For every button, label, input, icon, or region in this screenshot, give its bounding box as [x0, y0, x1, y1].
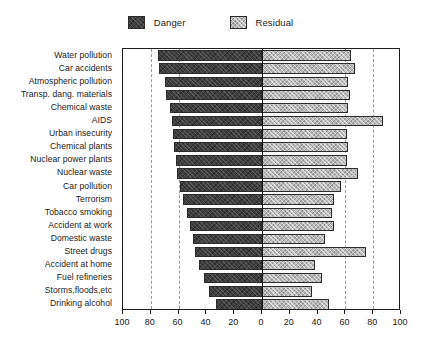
bar-residual	[262, 168, 358, 178]
bar-residual	[262, 103, 348, 113]
x-tick-label: 60	[339, 317, 349, 327]
bar-residual	[262, 194, 334, 204]
x-tick-label: 80	[145, 317, 155, 327]
bar-danger	[165, 77, 262, 87]
category-label: Chemical plants	[50, 141, 112, 151]
x-tick-label: 40	[200, 317, 210, 327]
bar-row	[123, 247, 399, 257]
bar-residual	[262, 273, 322, 283]
x-tick-label: 80	[367, 317, 377, 327]
bar-row	[123, 273, 399, 283]
bar-residual	[262, 63, 355, 73]
bar-row	[123, 260, 399, 270]
x-tick	[372, 310, 373, 314]
bar-residual	[262, 299, 329, 309]
bar-row	[123, 168, 399, 178]
bar-residual	[262, 221, 334, 231]
bar-row	[123, 286, 399, 296]
bar-danger	[193, 234, 263, 244]
bar-danger	[216, 299, 262, 309]
bar-row	[123, 194, 399, 204]
residual-swatch-icon	[230, 16, 247, 29]
bar-danger	[187, 208, 262, 218]
bar-danger	[170, 103, 262, 113]
category-label: Water pollution	[54, 50, 112, 60]
bar-danger	[204, 273, 262, 283]
bar-residual	[262, 286, 312, 296]
bar-row	[123, 299, 399, 309]
category-label: Nuclear power plants	[30, 154, 112, 164]
x-tick	[317, 310, 318, 314]
category-label: Drinking alcohol	[50, 298, 112, 308]
bar-residual	[262, 208, 332, 218]
bar-row	[123, 63, 399, 73]
bar-residual	[262, 129, 347, 139]
bar-danger	[173, 129, 262, 139]
bar-row	[123, 221, 399, 231]
bar-danger	[176, 155, 262, 165]
category-label: Chemical waste	[51, 102, 112, 112]
category-label: Tobacco smoking	[45, 207, 112, 217]
category-label: Transp. dang. materials	[21, 89, 112, 99]
category-label: Car pollution	[63, 181, 112, 191]
legend-entry-danger[interactable]: Danger	[128, 16, 186, 29]
bar-danger	[180, 181, 262, 191]
diverging-bar-chart: DangerResidual Water pollutionCar accide…	[0, 0, 421, 343]
x-tick	[261, 310, 262, 314]
bar-residual	[262, 77, 348, 87]
x-tick	[233, 310, 234, 314]
x-tick	[122, 310, 123, 314]
category-label: Atmospheric pollution	[29, 76, 112, 86]
x-tick-label: 20	[284, 317, 294, 327]
bar-danger	[174, 142, 262, 152]
category-axis-labels: Water pollutionCar accidentsAtmospheric …	[0, 48, 118, 310]
bar-residual	[262, 155, 347, 165]
category-label: Terrorism	[76, 194, 112, 204]
category-label: Accident at home	[45, 259, 112, 269]
category-label: Urban insecurity	[49, 128, 112, 138]
bar-danger	[158, 50, 262, 60]
bar-row	[123, 77, 399, 87]
bar-danger	[195, 247, 262, 257]
bar-row	[123, 116, 399, 126]
x-tick	[400, 310, 401, 314]
legend-label: Residual	[256, 17, 294, 28]
x-tick	[205, 310, 206, 314]
bar-danger	[172, 116, 262, 126]
bar-residual	[262, 247, 366, 257]
bar-row	[123, 234, 399, 244]
category-label: Domestic waste	[51, 233, 112, 243]
x-tick-label: 100	[392, 317, 407, 327]
x-tick-label: 20	[228, 317, 238, 327]
bar-danger	[190, 221, 262, 231]
legend-entry-residual[interactable]: Residual	[230, 16, 294, 29]
x-tick-label: 40	[312, 317, 322, 327]
bar-residual	[262, 234, 325, 244]
category-label: Street drugs	[65, 246, 112, 256]
bar-row	[123, 155, 399, 165]
x-tick	[150, 310, 151, 314]
x-tick-label: 0	[258, 317, 263, 327]
bar-danger	[166, 90, 262, 100]
zero-axis-line	[262, 49, 263, 309]
bar-danger	[159, 63, 262, 73]
bar-danger	[177, 168, 262, 178]
bar-row	[123, 90, 399, 100]
x-tick-label: 100	[114, 317, 129, 327]
category-label: Car accidents	[59, 63, 112, 73]
category-label: Nuclear waste	[57, 167, 112, 177]
category-label: Accident at work	[48, 220, 112, 230]
bar-row	[123, 181, 399, 191]
bar-residual	[262, 181, 341, 191]
x-tick	[178, 310, 179, 314]
legend-label: Danger	[154, 17, 186, 28]
category-label: Storms,floods,etc	[45, 285, 112, 295]
bar-row	[123, 208, 399, 218]
bar-danger	[183, 194, 262, 204]
bar-danger	[199, 260, 262, 270]
plot-area	[122, 48, 400, 310]
bar-residual	[262, 142, 348, 152]
bar-danger	[209, 286, 262, 296]
chart-legend: DangerResidual	[0, 12, 421, 32]
bar-row	[123, 50, 399, 60]
